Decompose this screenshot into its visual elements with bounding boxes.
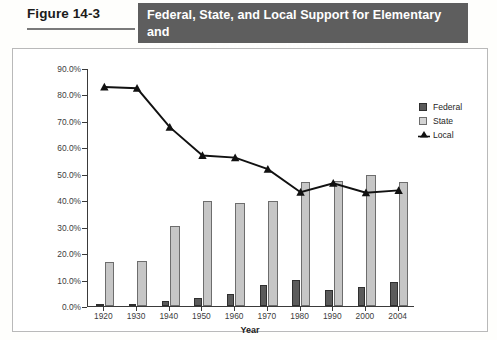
legend-label-federal: Federal [433,102,462,112]
y-tick-label-20: 20.0% [35,249,81,259]
x-tick-mark-1960 [234,307,235,311]
legend-item-federal: Federal [419,101,489,114]
y-tick-mark-20 [82,254,87,255]
y-tick-mark-70 [82,122,87,123]
chart-frame: Percent Year 0.0%10.0%20.0%30.0%40.0%50.… [12,48,488,332]
y-tick-mark-50 [82,175,87,176]
figure-header: Figure 14-3 Federal, State, and Local Su… [0,0,497,46]
legend-swatch-federal-icon [419,103,427,111]
x-tick-mark-1980 [300,307,301,311]
y-axis-title: Percent [0,128,1,161]
x-tick-mark-1940 [169,307,170,311]
local-line-series [88,69,415,307]
y-tick-label-90: 90.0% [35,64,81,74]
y-tick-mark-40 [82,201,87,202]
x-tick-mark-2000 [365,307,366,311]
y-tick-mark-60 [82,148,87,149]
x-tick-mark-1970 [267,307,268,311]
y-tick-label-40: 40.0% [35,196,81,206]
y-tick-mark-30 [82,228,87,229]
local-line-path [104,87,398,193]
legend-swatch-state-icon [419,117,427,125]
y-tick-mark-90 [82,69,87,70]
x-tick-mark-1930 [136,307,137,311]
figure-number-label: Figure 14-3 [27,6,100,21]
y-tick-mark-80 [82,95,87,96]
legend-label-local: Local [433,130,454,140]
plot-area [87,69,414,307]
legend-item-state: State [419,115,489,128]
x-tick-mark-1950 [201,307,202,311]
y-tick-mark-0 [82,307,87,308]
y-tick-mark-10 [82,281,87,282]
legend-item-local: Local [419,129,489,142]
y-tick-label-0: 0.0% [35,302,81,312]
legend-triangle-marker-icon [418,130,429,140]
y-tick-label-70: 70.0% [35,117,81,127]
figure-title-line-1: Federal, State, and Local Support for El… [147,8,441,39]
x-tick-mark-2004 [398,307,399,311]
figure-number-underline [27,28,135,30]
x-axis-title: Year [13,325,487,335]
x-tick-mark-1990 [332,307,333,311]
x-tick-label-2004: 2004 [378,311,418,321]
figure-title-bar: Federal, State, and Local Support for El… [138,3,468,43]
y-tick-label-50: 50.0% [35,170,81,180]
y-tick-label-60: 60.0% [35,143,81,153]
legend-label-state: State [433,116,453,126]
chart-legend: Federal State Local [419,101,489,143]
y-tick-label-80: 80.0% [35,90,81,100]
local-marker-1990 [329,179,337,187]
y-tick-label-10: 10.0% [35,276,81,286]
y-tick-label-30: 30.0% [35,223,81,233]
x-tick-mark-1920 [103,307,104,311]
